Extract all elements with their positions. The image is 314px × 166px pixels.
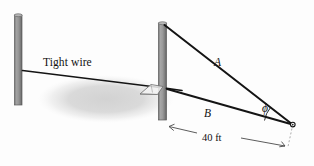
left-vertical-pole [14,14,22,105]
ground-stake-point [291,122,296,127]
figure-container: Tight wire A B ϕ 40 ft [0,0,314,166]
figure-drawing [0,0,314,166]
right-vertical-pole [158,22,166,120]
dimension-line-40ft [169,124,293,147]
segment-b-line [167,89,293,125]
ground-shadow-ellipse [38,75,174,123]
segment-a-line [165,25,293,125]
